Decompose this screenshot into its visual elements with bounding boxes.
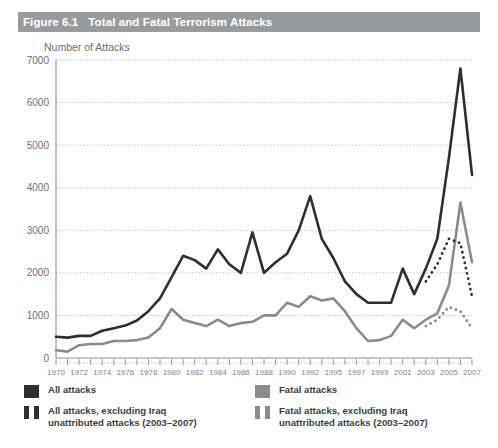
x-tick-label: 1974 (93, 368, 111, 377)
x-tick-label: 1976 (116, 368, 134, 377)
x-tick-label: 1972 (70, 368, 88, 377)
legend-label-fatal-attacks-ex-iraq: Fatal attacks, excluding Iraq unattribut… (279, 405, 428, 428)
gridlines (56, 60, 472, 363)
legend-label-fatal-attacks: Fatal attacks (279, 384, 337, 396)
legend-column-left: All attacks All attacks, excluding Iraq … (24, 384, 256, 435)
y-tick-label: 1000 (27, 310, 50, 321)
legend-label-line2: unattributed attacks (2003–2007) (48, 417, 197, 428)
x-tick-label: 1988 (255, 368, 273, 377)
x-tick-label: 2003 (417, 368, 435, 377)
legend-item-fatal-attacks-ex-iraq: Fatal attacks, excluding Iraq unattribut… (255, 405, 487, 428)
y-tick-label: 0 (43, 353, 49, 364)
x-tick-label: 1970 (47, 368, 65, 377)
legend-swatch-fatal-attacks (255, 385, 270, 398)
legend-label-line1: Fatal attacks, excluding Iraq (279, 405, 408, 416)
legend-label-line2: unattributed attacks (2003–2007) (279, 417, 428, 428)
x-tick-label: 2007 (463, 368, 481, 377)
legend-swatch-all-attacks-ex-iraq (24, 406, 39, 419)
x-tick-label: 1995 (324, 368, 342, 377)
y-tick-label: 6000 (27, 97, 50, 108)
x-axis-tick-labels: 1970197219741976197819801982198419861988… (47, 368, 481, 377)
chart-legend: All attacks All attacks, excluding Iraq … (24, 384, 484, 438)
x-axis-ticks (56, 359, 472, 365)
x-tick-label: 1992 (301, 368, 319, 377)
series-line (56, 69, 472, 338)
x-tick-label: 1990 (278, 368, 296, 377)
x-tick-label: 1980 (163, 368, 181, 377)
x-tick-label: 1997 (348, 368, 366, 377)
figure-container: Figure 6.1 Total and Fatal Terrorism Att… (0, 0, 498, 448)
legend-item-all-attacks: All attacks (24, 384, 256, 398)
legend-column-right: Fatal attacks Fatal attacks, excluding I… (255, 384, 487, 435)
data-series (56, 69, 472, 352)
y-tick-label: 3000 (27, 225, 50, 236)
series-line (56, 203, 472, 352)
legend-item-fatal-attacks: Fatal attacks (255, 384, 487, 398)
series-line (426, 307, 472, 328)
legend-label-all-attacks: All attacks (48, 384, 96, 396)
legend-swatch-fatal-attacks-ex-iraq (255, 406, 270, 419)
x-tick-label: 2001 (394, 368, 412, 377)
y-tick-label: 2000 (27, 267, 50, 278)
x-tick-label: 1978 (140, 368, 158, 377)
x-tick-label: 1999 (371, 368, 389, 377)
y-axis-tick-labels: 01000200030004000500060007000 (27, 55, 50, 364)
legend-label-line1: All attacks, excluding Iraq (48, 405, 166, 416)
x-tick-label: 1982 (186, 368, 204, 377)
x-tick-label: 2005 (440, 368, 458, 377)
y-tick-label: 7000 (27, 55, 50, 66)
x-tick-label: 1984 (209, 368, 227, 377)
line-chart-svg: 01000200030004000500060007000 1970197219… (0, 0, 498, 380)
y-tick-label: 4000 (27, 182, 50, 193)
y-tick-label: 5000 (27, 140, 50, 151)
legend-swatch-all-attacks (24, 385, 39, 398)
chart-plot-area: 01000200030004000500060007000 1970197219… (0, 0, 498, 380)
legend-label-all-attacks-ex-iraq: All attacks, excluding Iraq unattributed… (48, 405, 197, 428)
legend-item-all-attacks-ex-iraq: All attacks, excluding Iraq unattributed… (24, 405, 256, 428)
x-tick-label: 1986 (232, 368, 250, 377)
